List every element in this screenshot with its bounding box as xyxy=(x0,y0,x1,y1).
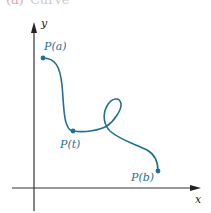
x-axis-label: x xyxy=(195,193,202,206)
point-pb-label: P(b) xyxy=(130,171,154,184)
point-pt-label: P(t) xyxy=(59,138,80,151)
parametric-curve-diagram: y x P(a) P(t) P(b) xyxy=(0,0,211,213)
point-pb-dot xyxy=(156,169,161,174)
y-axis-label: y xyxy=(40,17,48,30)
point-pa-label: P(a) xyxy=(43,40,67,53)
y-axis-arrow-icon xyxy=(31,22,37,33)
point-pa-dot xyxy=(41,56,46,61)
point-pt-dot xyxy=(71,129,76,134)
curve-path xyxy=(43,58,158,171)
x-axis-arrow-icon xyxy=(190,185,201,191)
